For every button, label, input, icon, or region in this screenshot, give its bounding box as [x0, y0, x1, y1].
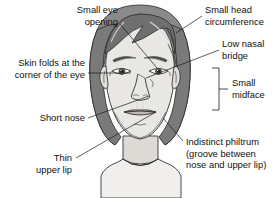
label-indistinct-philtrum-line2: (groove between — [186, 148, 256, 159]
label-thin-upper-lip-line1: Thin — [54, 152, 72, 163]
label-small-eye-opening-line1: Small eye — [77, 4, 118, 15]
label-low-nasal-bridge-line2: bridge — [222, 50, 248, 61]
label-skin-folds-line2: corner of the eye — [15, 69, 85, 80]
label-small-head-circumference-line1: Small head — [205, 4, 252, 15]
label-thin-upper-lip-line2: upper lip — [36, 164, 72, 175]
neck-shape — [123, 136, 158, 164]
label-small-head-circumference-line2: circumference — [205, 16, 264, 27]
label-skin-folds-line1: Skin folds at the — [18, 57, 85, 68]
label-short-nose: Short nose — [40, 112, 85, 123]
label-low-nasal-bridge-line1: Low nasal — [222, 38, 264, 49]
label-indistinct-philtrum-line1: Indistinct philtrum — [186, 136, 259, 147]
face-features-figure: Small eye opening Skin folds at the corn… — [0, 0, 280, 198]
label-small-eye-opening-line2: opening — [85, 16, 118, 27]
label-small-midface-line1: Small — [232, 77, 255, 88]
label-small-midface-line2: midface — [232, 89, 265, 100]
label-indistinct-philtrum-line3: nose and upper lip) — [186, 159, 266, 170]
